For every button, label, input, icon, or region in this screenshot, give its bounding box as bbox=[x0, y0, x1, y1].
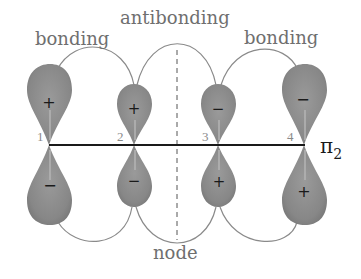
pi2-orbital-diagram: + − + − − + − + 1 2 3 4 bonding antibond… bbox=[0, 0, 361, 279]
atom-3-top-sign: − bbox=[212, 100, 225, 118]
label-bonding-right: bonding bbox=[244, 27, 318, 48]
bottom-arc-2-3 bbox=[136, 207, 216, 243]
atom-1-top-sign: + bbox=[42, 93, 55, 112]
atom-3-bottom-sign: + bbox=[213, 173, 226, 191]
atom-number-1: 1 bbox=[37, 129, 44, 144]
label-bonding-left: bonding bbox=[35, 28, 109, 49]
atom-number-4: 4 bbox=[287, 129, 294, 144]
atom-1-bottom-sign: − bbox=[43, 176, 56, 195]
atom-2-bottom-sign: − bbox=[128, 172, 141, 190]
atom-4-bottom-sign: + bbox=[297, 182, 310, 201]
atom-number-2: 2 bbox=[117, 129, 124, 144]
atom-number-3: 3 bbox=[202, 129, 209, 144]
label-node: node bbox=[153, 242, 198, 263]
atom-2-top-sign: + bbox=[128, 100, 141, 118]
orbital-label: π2 bbox=[320, 134, 342, 162]
label-antibonding: antibonding bbox=[120, 7, 230, 28]
atom-4-top-sign: − bbox=[296, 90, 309, 109]
